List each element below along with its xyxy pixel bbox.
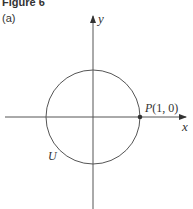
point-p-marker (138, 115, 143, 120)
unit-circle-diagram: y x P(1, 0) U (0, 0, 193, 209)
circle-label: U (48, 149, 58, 163)
x-axis-label: x (181, 119, 188, 134)
point-p-label: P(1, 0) (144, 101, 178, 115)
y-axis-label: y (96, 11, 104, 26)
